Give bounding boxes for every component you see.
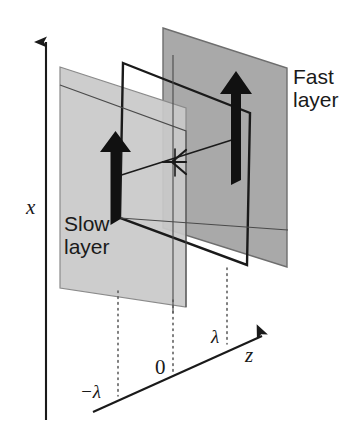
- tick-label-zero: 0: [155, 356, 166, 379]
- fast-layer-label: Fast layer: [293, 66, 339, 111]
- tick-label-neg-lambda: −λ: [80, 382, 101, 403]
- figure-root: Fast layer Slow layer x z −λ 0 λ: [0, 0, 362, 438]
- tick-label-lambda: λ: [211, 327, 219, 348]
- x-axis-label: x: [26, 196, 35, 219]
- z-axis-label: z: [245, 344, 253, 367]
- slow-layer-label: Slow layer: [64, 213, 110, 258]
